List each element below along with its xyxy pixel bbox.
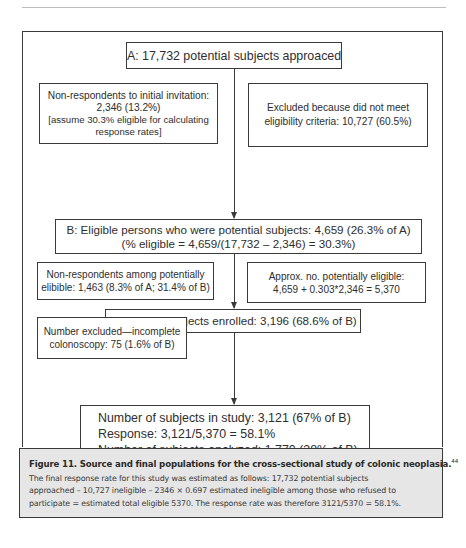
node-line: 4,659 + 0.303*2,346 = 5,370 bbox=[273, 283, 400, 296]
node-line: response rates] bbox=[95, 126, 161, 138]
node-b-eligible: B: Eligible persons who were potential s… bbox=[55, 219, 422, 254]
arrow-head-icon bbox=[231, 302, 237, 309]
node-line: elibible: 1,463 (8.3% of A; 31.4% of B) bbox=[41, 281, 209, 294]
node-excluded-criteria: Excluded because did not meet eligibilit… bbox=[248, 83, 428, 147]
figure-caption-panel: Figure 11. Source and final populations … bbox=[19, 448, 443, 518]
caption-line: participate = estimated total eligible 5… bbox=[29, 498, 442, 510]
node-line: B: Eligible persons who were potential s… bbox=[66, 223, 410, 237]
node-line: 2,346 (13.2%) bbox=[97, 102, 161, 114]
caption-title-text: Figure 11. Source and final populations … bbox=[29, 459, 451, 469]
caption-line: approached – 10,727 ineligible – 2346 × … bbox=[29, 485, 442, 497]
caption-body: The final response rate for this study w… bbox=[29, 473, 442, 510]
arrow-head-icon bbox=[231, 398, 237, 405]
node-line: Non-respondents among potentially bbox=[47, 268, 205, 281]
caption-line: The final response rate for this study w… bbox=[29, 473, 442, 485]
connector-enrolled-to-final bbox=[234, 333, 235, 404]
node-line: (% eligible = 4,659/(17,732 – 2,346) = 3… bbox=[122, 237, 356, 251]
arrow-head-icon bbox=[231, 212, 237, 219]
node-nonrespondents-eligible: Non-respondents among potentially elibib… bbox=[37, 262, 214, 300]
caption-reference: 44 bbox=[451, 458, 458, 464]
node-line: Response: 3,121/5,370 = 58.1% bbox=[98, 426, 275, 442]
caption-title: Figure 11. Source and final populations … bbox=[29, 455, 442, 471]
node-line: Number of subjects in study: 3,121 (67% … bbox=[98, 410, 351, 426]
connector-a-to-b bbox=[234, 68, 235, 218]
node-approx-eligible: Approx. no. potentially eligible: 4,659 … bbox=[247, 262, 426, 303]
node-line: [assume 30.3% eligible for calculating bbox=[48, 114, 209, 126]
node-line: Approx. no. potentially eligible: bbox=[269, 270, 405, 283]
node-line: eligibility criteria: 10,727 (60.5%) bbox=[264, 115, 411, 129]
node-a-line: A: 17,732 potential subjects approaced bbox=[127, 48, 341, 64]
node-excluded-colonoscopy: Number excluded—incomplete colonoscopy: … bbox=[37, 317, 187, 359]
node-nonrespondents-initial: Non-respondents to initial invitation: 2… bbox=[39, 83, 218, 144]
connector-b-to-enrolled bbox=[234, 254, 235, 308]
node-line: colonoscopy: 75 (1.6% of B) bbox=[49, 338, 174, 351]
node-line: Number excluded—incomplete bbox=[44, 325, 181, 338]
top-rule bbox=[22, 7, 446, 8]
node-line: Non-respondents to initial invitation: bbox=[48, 90, 209, 102]
node-line: Excluded because did not meet bbox=[267, 101, 409, 115]
node-a-approached: A: 17,732 potential subjects approaced bbox=[126, 42, 342, 69]
